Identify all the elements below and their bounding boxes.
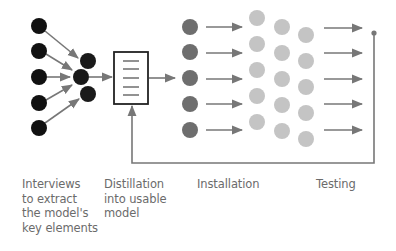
installation-arrows bbox=[206, 27, 242, 130]
distillation-document-icon bbox=[114, 52, 148, 104]
testing-nodes bbox=[249, 10, 314, 147]
testing-arrows bbox=[324, 28, 362, 130]
label-installation: Installation bbox=[197, 177, 260, 192]
label-interviews: Interviews to extract the model's key el… bbox=[22, 177, 98, 235]
label-testing: Testing bbox=[316, 177, 356, 192]
label-distillation: Distillation into usable model bbox=[104, 177, 166, 221]
installation-nodes bbox=[182, 19, 198, 138]
interview-source-nodes bbox=[31, 18, 47, 136]
